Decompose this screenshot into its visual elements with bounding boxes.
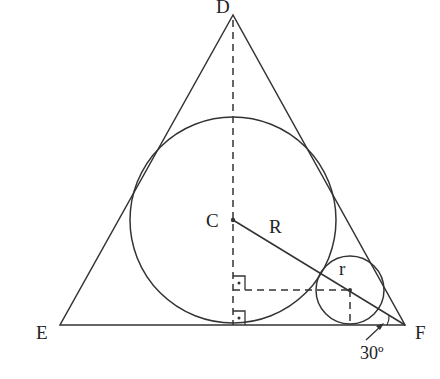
center-point-small bbox=[348, 288, 352, 292]
label-e: E bbox=[36, 322, 48, 343]
right-angle-dot-upper bbox=[238, 282, 241, 285]
angle-arc-f bbox=[387, 315, 389, 325]
label-angle-30: 30º bbox=[360, 343, 384, 363]
geometry-diagram: D C R r E F 30º bbox=[0, 0, 440, 379]
label-d: D bbox=[216, 0, 230, 17]
label-c: C bbox=[206, 210, 219, 231]
label-f: F bbox=[415, 322, 426, 343]
center-point-c bbox=[231, 218, 235, 222]
label-r-large: R bbox=[269, 216, 282, 237]
label-r-small: r bbox=[339, 258, 346, 279]
right-angle-dot-lower bbox=[238, 317, 241, 320]
